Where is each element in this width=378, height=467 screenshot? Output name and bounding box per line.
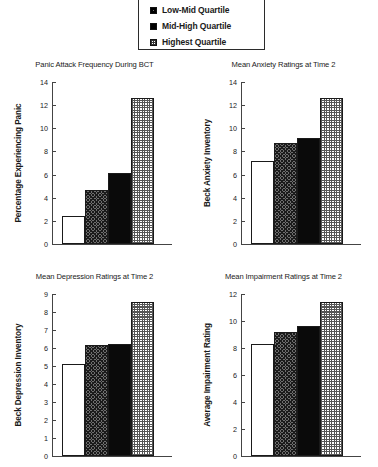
legend-swatch-solid-icon xyxy=(150,23,157,30)
chart-title: Mean Depression Ratings at Time 2 xyxy=(0,272,189,281)
y-axis-tick-label: 10 xyxy=(217,317,237,326)
y-axis-tick-label: 6 xyxy=(28,344,48,353)
legend-item-label: Low-Mid Quartile xyxy=(162,6,229,15)
y-axis-tick-label: 2 xyxy=(217,216,237,225)
quartile-legend: Low-Mid Quartile Mid-High Quartile Highe… xyxy=(138,0,265,50)
y-axis-tick-label: 4 xyxy=(28,380,48,389)
y-axis-tick-label: 6 xyxy=(217,371,237,380)
y-axis-tick-label: 6 xyxy=(28,170,48,179)
bar xyxy=(85,345,108,456)
bar-series xyxy=(52,294,172,456)
y-axis-tick-label: 14 xyxy=(217,78,237,87)
y-axis-tick-label: 6 xyxy=(217,170,237,179)
bar-series xyxy=(241,82,361,244)
bar xyxy=(274,143,297,244)
y-axis-tick-label: 0 xyxy=(217,240,237,249)
y-axis-tick-label: 4 xyxy=(28,193,48,202)
bar xyxy=(251,344,274,456)
chart-title: Panic Attack Frequency During BCT xyxy=(0,60,189,69)
y-axis-tick xyxy=(242,456,245,457)
y-axis-tick-label: 1 xyxy=(28,434,48,443)
y-axis-tick xyxy=(53,244,56,245)
bar xyxy=(85,190,108,244)
bar xyxy=(274,332,297,456)
bar xyxy=(320,98,343,244)
chart-title: Mean Anxiety Ratings at Time 2 xyxy=(189,60,378,69)
y-axis-tick-label: 9 xyxy=(28,290,48,299)
bar xyxy=(131,302,154,456)
y-axis-tick-label: 12 xyxy=(217,290,237,299)
y-axis-tick-label: 2 xyxy=(28,416,48,425)
y-axis-tick-label: 12 xyxy=(28,101,48,110)
legend-item-label: Mid-High Quartile xyxy=(162,22,231,31)
bar xyxy=(108,173,131,244)
y-axis-tick-label: 8 xyxy=(217,147,237,156)
chart-panel-panic-frequency: Panic Attack Frequency During BCTPercent… xyxy=(0,60,189,265)
chart-panel-impairment-ratings: Mean Impairment Ratings at Time 2Average… xyxy=(189,272,378,467)
bar xyxy=(251,161,274,244)
bar xyxy=(62,216,85,244)
x-axis xyxy=(241,244,361,245)
y-axis-tick-label: 0 xyxy=(28,240,48,249)
x-axis xyxy=(52,244,172,245)
bar xyxy=(108,344,131,457)
chart-title: Mean Impairment Ratings at Time 2 xyxy=(189,272,378,281)
legend-item-label: Highest Quartile xyxy=(162,38,226,47)
y-axis-tick-label: 3 xyxy=(28,398,48,407)
legend-swatch-hatch-icon xyxy=(150,7,157,14)
y-axis-tick-label: 12 xyxy=(217,101,237,110)
x-axis xyxy=(241,456,361,457)
legend-item: Highest Quartile xyxy=(139,34,264,50)
y-axis-label: Beck Anxiety Inventory xyxy=(203,82,212,244)
y-axis-tick-label: 5 xyxy=(28,362,48,371)
y-axis-tick-label: 4 xyxy=(217,398,237,407)
legend-swatch-dots-icon xyxy=(150,39,157,46)
y-axis-label: Beck Depression Inventory xyxy=(14,294,23,456)
y-axis-label: Percentage Experiencing Panic xyxy=(14,82,23,244)
y-axis-tick-label: 0 xyxy=(217,452,237,461)
y-axis-tick-label: 14 xyxy=(28,78,48,87)
bar xyxy=(320,302,343,456)
x-axis xyxy=(52,456,172,457)
bar-series xyxy=(52,82,172,244)
bar xyxy=(62,364,85,456)
bar-series xyxy=(241,294,361,456)
y-axis-tick-label: 0 xyxy=(28,452,48,461)
y-axis-tick-label: 4 xyxy=(217,193,237,202)
legend-item: Low-Mid Quartile xyxy=(139,2,264,18)
y-axis-tick-label: 10 xyxy=(217,124,237,133)
bar xyxy=(297,326,320,456)
y-axis-tick xyxy=(242,244,245,245)
y-axis-tick-label: 8 xyxy=(217,344,237,353)
chart-panel-anxiety-ratings: Mean Anxiety Ratings at Time 2Beck Anxie… xyxy=(189,60,378,265)
chart-panel-depression-ratings: Mean Depression Ratings at Time 2Beck De… xyxy=(0,272,189,467)
y-axis-tick-label: 10 xyxy=(28,124,48,133)
y-axis-tick-label: 8 xyxy=(28,147,48,156)
y-axis-tick-label: 8 xyxy=(28,308,48,317)
legend-item: Mid-High Quartile xyxy=(139,18,264,34)
y-axis-label: Average Impairment Rating xyxy=(203,294,212,456)
y-axis-tick-label: 7 xyxy=(28,326,48,335)
y-axis-tick-label: 2 xyxy=(217,425,237,434)
y-axis-tick-label: 2 xyxy=(28,216,48,225)
bar xyxy=(131,98,154,244)
y-axis-tick xyxy=(53,456,56,457)
bar xyxy=(297,138,320,244)
